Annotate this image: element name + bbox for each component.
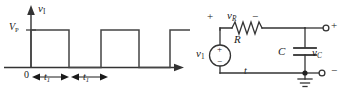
- pulse-train-trace: [31, 30, 190, 68]
- resistor-voltage-subscript: R: [232, 15, 236, 23]
- capacitor-voltage-label: vC: [312, 47, 322, 60]
- amplitude-label-subscript: P: [15, 26, 19, 33]
- junction-dot: [302, 70, 307, 75]
- y-axis-label-subscript: I: [43, 8, 45, 16]
- resistor-polarity-plus: +: [207, 11, 213, 22]
- resistor-polarity-minus: −: [252, 11, 258, 22]
- source-label-subscript: 1: [201, 53, 205, 61]
- circuit-svg: [190, 0, 347, 96]
- output-terminal-negative: [319, 70, 325, 76]
- waveform-svg: [0, 0, 190, 96]
- terminal-label-positive: +: [331, 20, 337, 31]
- interval-label-second-subscript: 1: [86, 76, 89, 83]
- output-terminal-positive: [323, 25, 329, 31]
- source-polarity-minus: −: [217, 57, 222, 66]
- resistor-voltage-label: vR: [227, 10, 236, 23]
- interval-label-second: t1: [83, 72, 89, 83]
- origin-label: 0: [24, 70, 29, 80]
- input-waveform-plot: vI VP 0 t1 t1: [0, 0, 190, 96]
- dimension-t1-first: [32, 74, 69, 81]
- amplitude-label: VP: [9, 22, 19, 33]
- dimension-t1-second: [71, 74, 108, 81]
- resistor-label: R: [234, 34, 241, 45]
- interval-label-first-subscript: 1: [47, 76, 50, 83]
- source-polarity-plus: +: [217, 45, 222, 54]
- interval-label-first: t1: [44, 72, 50, 83]
- figure-container: vI VP 0 t1 t1 t: [0, 0, 347, 96]
- terminal-label-negative: −: [331, 65, 337, 76]
- capacitor-voltage-subscript: C: [317, 52, 322, 60]
- y-axis-label: vI: [38, 3, 45, 16]
- rc-circuit-diagram: + vR − R v1 + − C vC + −: [190, 0, 347, 96]
- capacitor-label: C: [278, 46, 285, 57]
- wire-source-to-resistor: [220, 28, 232, 30]
- source-label: v1: [196, 48, 205, 61]
